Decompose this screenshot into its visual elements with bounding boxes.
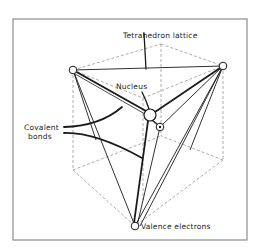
valence-electron-bottom: [131, 222, 139, 230]
tetra-edge: [135, 66, 223, 226]
label-valence-electrons: Valence electrons: [141, 222, 211, 231]
leader-lines: [64, 33, 149, 158]
label-covalent: Covalent: [24, 123, 59, 132]
cube-edge: [73, 44, 161, 70]
valence-electron-top-right: [219, 62, 227, 70]
cube-edge: [135, 160, 223, 226]
cube-edge: [73, 136, 161, 170]
tetra-edge: [73, 70, 135, 226]
tetra-edge: [160, 66, 223, 127]
electron-dot: [159, 126, 161, 128]
atoms: [69, 62, 227, 230]
cube-edge: [161, 44, 223, 66]
tetrahedron-diagram: Tetrahedron lattice Nucleus Covalent bon…: [0, 0, 262, 249]
cube-edge: [161, 136, 223, 160]
tetra-edge: [140, 66, 223, 226]
bonds: [73, 66, 223, 223]
tetrahedron-edges: [73, 66, 223, 226]
valence-electron-top-left: [69, 66, 77, 74]
label-nucleus: Nucleus: [116, 82, 147, 91]
label-tetrahedron-lattice: Tetrahedron lattice: [122, 31, 198, 40]
label-bonds: bonds: [28, 132, 52, 141]
cube-edge: [73, 170, 135, 226]
tetra-edge: [190, 66, 223, 150]
bond-right: [155, 66, 223, 112]
tetra-edge: [73, 66, 223, 70]
nucleus: [144, 109, 156, 121]
cube-wireframe: [73, 44, 223, 226]
